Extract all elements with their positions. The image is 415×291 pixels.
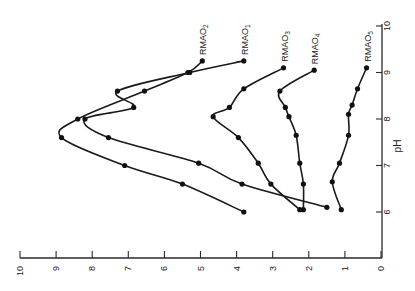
- series-label: RMAO5: [363, 31, 374, 62]
- data-point: [180, 182, 185, 187]
- data-point: [346, 112, 351, 117]
- activity-tick-label: 5: [196, 266, 206, 271]
- activity-tick-label: 7: [123, 266, 133, 271]
- series-group: RMAO2RMAO1RMAO3RMAO4RMAO5: [59, 24, 374, 215]
- data-point: [286, 114, 291, 119]
- series-rmao5: RMAO5: [330, 31, 374, 212]
- data-point: [239, 182, 244, 187]
- ph-tick-label: 6: [382, 209, 392, 214]
- data-point: [187, 70, 192, 75]
- data-point: [241, 86, 246, 91]
- data-point: [59, 135, 64, 140]
- series-label: RMAO4: [310, 33, 321, 64]
- series-label: RMAO2: [198, 24, 209, 55]
- activity-tick-label: 9: [51, 266, 61, 271]
- data-point: [312, 68, 317, 73]
- activity-tick-label: 4: [232, 266, 242, 271]
- data-point: [75, 116, 80, 121]
- data-point: [241, 58, 246, 63]
- ph-tick-label: 9: [382, 70, 392, 75]
- data-point: [236, 135, 241, 140]
- data-point: [294, 133, 299, 138]
- activity-tick-label: 6: [159, 266, 169, 271]
- data-point: [122, 163, 127, 168]
- data-point: [227, 105, 232, 110]
- data-point: [301, 207, 306, 212]
- ph-axis-title: pH: [392, 140, 403, 153]
- data-point: [142, 89, 147, 94]
- data-point: [82, 116, 87, 121]
- data-point: [346, 133, 351, 138]
- activity-axis-ticks: 012345678910: [15, 251, 386, 276]
- data-point: [301, 182, 306, 187]
- activity-tick-label: 8: [87, 266, 97, 271]
- activity-tick-label: 0: [376, 266, 386, 271]
- data-point: [196, 161, 201, 166]
- series-line: [278, 70, 314, 210]
- ph-axis-ticks: 678910: [376, 21, 392, 215]
- ph-tick-label: 10: [382, 21, 392, 31]
- ph-tick-label: 8: [382, 116, 392, 121]
- data-point: [355, 86, 360, 91]
- data-point: [364, 65, 369, 70]
- data-point: [268, 182, 273, 187]
- data-point: [297, 161, 302, 166]
- data-point: [339, 207, 344, 212]
- series-line: [59, 61, 244, 212]
- data-point: [281, 65, 286, 70]
- series-label: RMAO1: [240, 24, 251, 55]
- data-point: [115, 89, 120, 94]
- data-point: [241, 209, 246, 214]
- data-point: [283, 105, 288, 110]
- data-point: [131, 105, 136, 110]
- ph-tick-label: 7: [382, 163, 392, 168]
- data-point: [211, 114, 216, 119]
- series-line: [332, 68, 366, 210]
- data-point: [200, 58, 205, 63]
- data-point: [256, 161, 261, 166]
- activity-tick-label: 10: [15, 266, 25, 276]
- data-point: [324, 205, 329, 210]
- series-label: RMAO3: [280, 31, 291, 62]
- activity-tick-label: 2: [304, 266, 314, 271]
- data-point: [330, 179, 335, 184]
- rotated-line-chart: 012345678910 678910 pH RMAO2RMAO1RMAO3RM…: [0, 0, 415, 291]
- data-point: [277, 89, 282, 94]
- data-point: [106, 135, 111, 140]
- activity-tick-label: 3: [268, 266, 278, 271]
- series-rmao3: RMAO3: [211, 31, 303, 212]
- activity-tick-label: 1: [340, 266, 350, 271]
- data-point: [350, 102, 355, 107]
- data-point: [337, 161, 342, 166]
